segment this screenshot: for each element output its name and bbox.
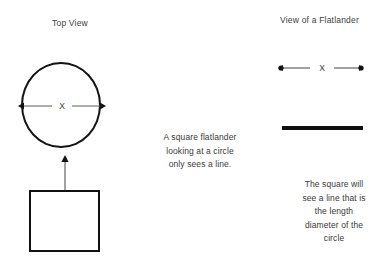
sight-arrowhead-icon <box>61 155 68 162</box>
caption-center: A square flatlander looking at a circle … <box>148 131 252 172</box>
caption-right-line-3: the length <box>285 205 383 219</box>
x-measure-endpoint-left-icon <box>278 65 283 70</box>
x-measure-endpoint-right-icon <box>358 65 363 70</box>
caption-center-line-1: A square flatlander <box>148 131 252 145</box>
flatlander-length-label: X <box>319 63 325 73</box>
caption-right: The square will see a line that is the l… <box>285 178 383 246</box>
line-of-sight-arrow <box>54 152 76 192</box>
diagram-canvas: Top View X A square flatlander looking a… <box>0 0 387 272</box>
caption-right-line-2: see a line that is <box>285 192 383 206</box>
title-flatlander-view: View of a Flatlander <box>280 14 359 27</box>
title-top-view: Top View <box>52 17 88 30</box>
caption-right-line-5: circle <box>285 232 383 246</box>
flatlander-length-measure: X <box>274 58 370 78</box>
diameter-arrowhead-right-icon <box>100 102 106 109</box>
seen-line-shape <box>282 126 363 130</box>
caption-center-line-2: looking at a circle <box>148 145 252 159</box>
circle-diameter-label: X <box>59 101 65 111</box>
caption-right-line-4: diameter of the <box>285 219 383 233</box>
caption-right-line-1: The square will <box>285 178 383 192</box>
diameter-arrowhead-left-icon <box>18 102 24 109</box>
square-shape <box>29 190 100 252</box>
caption-center-line-3: only sees a line. <box>148 158 252 172</box>
circle-diameter-measure: X <box>18 97 106 115</box>
